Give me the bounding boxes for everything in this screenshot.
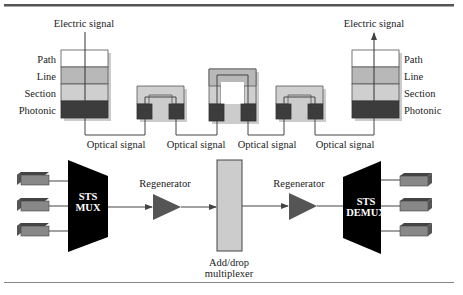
right-line-label: Line [404, 71, 424, 82]
top-rule [4, 4, 454, 7]
right-photonic-label: Photonic [404, 105, 442, 116]
right-electric-signal-label: Electric signal [344, 18, 404, 29]
adm-label-2: multiplexer [205, 268, 254, 279]
sonet-diagram: Electric signal Path Line Section Photon… [0, 0, 463, 295]
bottom-rule [4, 282, 454, 283]
right-layer-stack [352, 33, 402, 121]
terminal-box [17, 198, 49, 211]
optical-signal-label-1: Optical signal [87, 139, 146, 150]
demux-label-2: DEMUX [346, 207, 386, 218]
regenerator-left [153, 194, 181, 220]
left-electric-signal-label: Electric signal [54, 18, 114, 29]
terminal-box [400, 198, 432, 211]
optical-signal-label-2: Optical signal [167, 139, 226, 150]
right-path-label: Path [404, 54, 423, 65]
left-layer-stack [61, 32, 111, 121]
left-line-label: Line [37, 71, 57, 82]
regenerator-node-2 [276, 86, 326, 122]
input-terminals [17, 172, 69, 236]
terminal-box [400, 223, 432, 236]
regenerator-right [289, 193, 317, 220]
output-terminals [381, 173, 432, 236]
optical-signal-label-3: Optical signal [238, 139, 297, 150]
terminal-box [17, 172, 49, 185]
left-photonic-label: Photonic [19, 105, 57, 116]
photonic-layer [61, 101, 108, 118]
right-section-label: Section [404, 88, 436, 99]
regenerator-right-label: Regenerator [273, 178, 325, 189]
mux-label-2: MUX [75, 202, 100, 213]
adm-node [209, 69, 259, 124]
terminal-box [400, 173, 432, 186]
demux-label-1: STS [357, 196, 376, 207]
adm-label-1: Add/drop [209, 257, 249, 268]
add-drop-multiplexer [217, 160, 242, 251]
left-path-label: Path [37, 54, 56, 65]
mux-label-1: STS [79, 191, 98, 202]
terminal-box [17, 223, 49, 236]
left-section-label: Section [25, 88, 57, 99]
regenerator-left-label: Regenerator [139, 178, 191, 189]
optical-signal-label-4: Optical signal [316, 139, 375, 150]
regenerator-node-1 [137, 86, 187, 122]
